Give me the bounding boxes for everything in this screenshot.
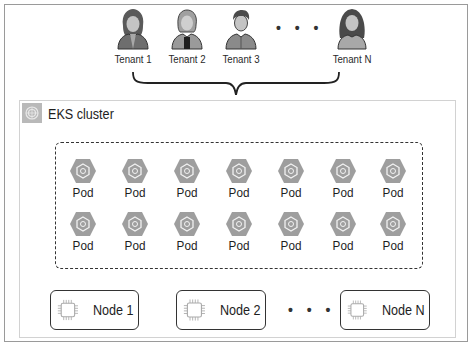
pod-label: Pod bbox=[271, 185, 311, 200]
pod: Pod bbox=[269, 211, 313, 253]
curly-brace-icon bbox=[128, 70, 348, 100]
pod-label: Pod bbox=[63, 238, 103, 253]
pod: Pod bbox=[61, 158, 105, 200]
pod: Pod bbox=[269, 158, 313, 200]
pod: Pod bbox=[113, 158, 157, 200]
pod: Pod bbox=[217, 158, 261, 200]
pod-label: Pod bbox=[219, 238, 259, 253]
chip-icon bbox=[183, 297, 206, 323]
tenants-ellipsis: • • • bbox=[276, 20, 323, 36]
chip-icon bbox=[347, 297, 368, 323]
pod: Pod bbox=[165, 158, 209, 200]
pod-label: Pod bbox=[115, 185, 155, 200]
pod: Pod bbox=[165, 211, 209, 253]
pod: Pod bbox=[371, 211, 415, 253]
pod-hexagon-icon bbox=[277, 211, 305, 237]
pod-label: Pod bbox=[219, 185, 259, 200]
pod: Pod bbox=[321, 211, 365, 253]
pod-hexagon-icon bbox=[225, 211, 253, 237]
node-label: Node 2 bbox=[220, 302, 261, 318]
node-label: Node 1 bbox=[93, 302, 134, 318]
pod-hexagon-icon bbox=[121, 158, 149, 184]
pod-label: Pod bbox=[271, 238, 311, 253]
tenant-3: Tenant 3 bbox=[211, 8, 271, 65]
tenant-label: Tenant 1 bbox=[107, 53, 160, 65]
pod-hexagon-icon bbox=[121, 211, 149, 237]
pod-hexagon-icon bbox=[379, 211, 407, 237]
pod-hexagon-icon bbox=[173, 158, 201, 184]
pod-label: Pod bbox=[323, 185, 363, 200]
pod-hexagon-icon bbox=[173, 211, 201, 237]
pod-hexagon-icon bbox=[69, 158, 97, 184]
pod-label: Pod bbox=[373, 238, 413, 253]
cluster-title: EKS cluster bbox=[48, 106, 114, 122]
tenant-1: Tenant 1 bbox=[103, 8, 163, 65]
node-2: Node 2 bbox=[176, 290, 266, 330]
pod: Pod bbox=[61, 211, 105, 253]
user-male-icon bbox=[224, 8, 258, 50]
pod: Pod bbox=[113, 211, 157, 253]
tenant-label: Tenant 3 bbox=[215, 53, 268, 65]
user-female-icon bbox=[116, 8, 150, 50]
pod-label: Pod bbox=[373, 185, 413, 200]
user-female-icon bbox=[170, 8, 204, 50]
pod-label: Pod bbox=[63, 185, 103, 200]
nodes-ellipsis: • • • bbox=[288, 302, 335, 318]
pod-hexagon-icon bbox=[69, 211, 97, 237]
chip-icon bbox=[57, 297, 79, 323]
node-1: Node 1 bbox=[50, 290, 139, 330]
pod-hexagon-icon bbox=[277, 158, 305, 184]
eks-cluster-icon bbox=[22, 103, 42, 123]
tenant-2: Tenant 2 bbox=[157, 8, 217, 65]
tenant-n: Tenant N bbox=[322, 8, 382, 65]
pod: Pod bbox=[371, 158, 415, 200]
pod-label: Pod bbox=[167, 185, 207, 200]
pod-label: Pod bbox=[167, 238, 207, 253]
pod-hexagon-icon bbox=[329, 211, 357, 237]
pod-hexagon-icon bbox=[379, 158, 407, 184]
pod-label: Pod bbox=[115, 238, 155, 253]
pod-hexagon-icon bbox=[329, 158, 357, 184]
tenant-label: Tenant N bbox=[326, 53, 379, 65]
node-n: Node N bbox=[340, 290, 430, 330]
tenant-label: Tenant 2 bbox=[161, 53, 214, 65]
pod-hexagon-icon bbox=[225, 158, 253, 184]
pod: Pod bbox=[321, 158, 365, 200]
user-female-long-hair-icon bbox=[335, 8, 369, 50]
node-label: Node N bbox=[382, 302, 425, 318]
pod: Pod bbox=[217, 211, 261, 253]
pod-label: Pod bbox=[323, 238, 363, 253]
